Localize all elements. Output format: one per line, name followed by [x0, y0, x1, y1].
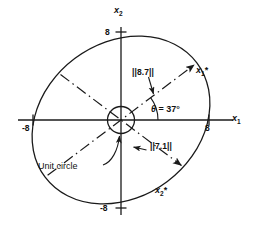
minor-norm-leader: [134, 147, 147, 150]
major-norm-label: ||8.7||: [132, 68, 154, 77]
major-norm-leader: [149, 77, 154, 94]
figure-canvas: x1 x2 x1* x2* 8 -8 8 -8 ||8.7|| ||7.1|| …: [0, 0, 261, 234]
x2-axis-label: x2: [114, 6, 123, 17]
tick-label-x2-pos: 8: [105, 28, 110, 37]
x1-axis-label: x1: [232, 114, 241, 125]
tick-label-x1-neg: -8: [22, 124, 30, 133]
minor-norm-label: ||7.1||: [150, 142, 172, 151]
tick-label-x2-neg: -8: [100, 204, 108, 213]
x1-star-axis-label: x1*: [196, 66, 208, 77]
theta-angle-label: θ = 37°: [151, 105, 180, 114]
ellipse-diagram-svg: [0, 0, 261, 234]
unit-circle-leader: [103, 136, 120, 165]
x2-star-axis-label: x2*: [155, 186, 167, 197]
unit-circle-label: Unit circle: [38, 162, 78, 171]
tick-label-x1-pos: 8: [205, 124, 210, 133]
